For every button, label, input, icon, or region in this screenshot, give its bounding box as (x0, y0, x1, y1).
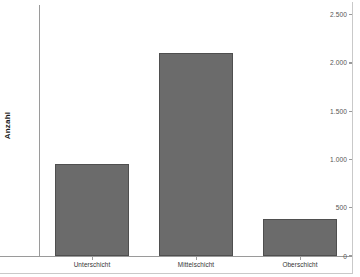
y-axis-tick-mark (349, 14, 352, 15)
y-axis-tick-mark (349, 62, 352, 63)
y-axis-tick-mark (349, 159, 352, 160)
bar (263, 219, 337, 256)
x-axis-tick-mark (92, 256, 93, 260)
x-axis-tick-label: Mittelschicht (146, 261, 246, 268)
y-axis-tick-label: 1.000 (330, 156, 349, 163)
y-axis-tick-label: 2.000 (330, 59, 349, 66)
bar (55, 164, 129, 256)
bar (159, 53, 233, 256)
y-axis-tick-label: 2.500 (330, 11, 349, 18)
x-axis-tick-label: Oberschicht (250, 261, 350, 268)
figure-border-bottom (0, 273, 353, 274)
y-axis-tick-mark (349, 111, 352, 112)
figure-border-right (352, 2, 353, 274)
y-axis-tick-label: 500 (336, 204, 349, 211)
x-axis-tick-mark (196, 256, 197, 260)
y-axis-tick-mark (349, 255, 352, 256)
x-axis-tick-label: Unterschicht (42, 261, 142, 268)
y-axis-title: Anzahl (2, 0, 14, 251)
y-axis-tick-mark (349, 207, 352, 208)
y-axis-title-label: Anzahl (4, 112, 13, 139)
bar-chart: Anzahl 05001.0001.5002.0002.500 Untersch… (0, 0, 360, 277)
x-axis-tick-mark (300, 256, 301, 260)
plot-area: 05001.0001.5002.0002.500 (40, 5, 352, 256)
y-axis-tick-label: 1.500 (330, 108, 349, 115)
